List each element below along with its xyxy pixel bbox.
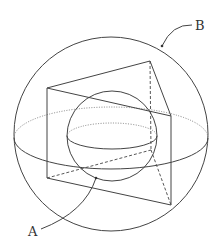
outer-equator-back: [14, 107, 208, 138]
label-b: B: [195, 18, 205, 33]
sphere-diagram: B A: [0, 0, 220, 241]
outer-equator-front: [14, 138, 208, 169]
label-a: A: [27, 224, 38, 239]
leader-b: [162, 25, 192, 46]
inner-sphere: [67, 91, 157, 181]
inner-equator-front: [67, 136, 157, 149]
outer-sphere: [14, 37, 208, 231]
inner-equator-back: [67, 123, 157, 136]
triangular-plane: [47, 61, 171, 205]
